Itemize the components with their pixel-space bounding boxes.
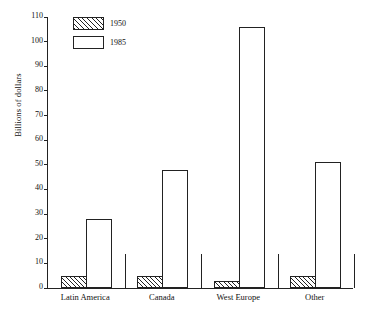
- bar-group: [201, 18, 278, 288]
- bar-group: [125, 18, 202, 288]
- y-tick-label: 110: [19, 11, 43, 20]
- x-axis-label-west-europe: West Europe: [200, 292, 277, 302]
- x-axis-label-canada: Canada: [124, 292, 201, 302]
- y-tick-label: 70: [19, 110, 43, 119]
- bar-chart-figure: Billions of dollars 01020304050607080901…: [0, 0, 383, 322]
- y-tick-label: 90: [19, 60, 43, 69]
- bar-1985-west-europe: [239, 27, 265, 288]
- y-tick-label: 80: [19, 85, 43, 94]
- legend-label-1985: 1985: [110, 39, 126, 47]
- bar-1985-latin-america: [86, 219, 112, 288]
- chart-legend: 19501985: [73, 17, 126, 55]
- category-separator: [354, 254, 355, 288]
- legend-item-1985: 1985: [73, 36, 126, 49]
- y-tick-label: 0: [19, 282, 43, 291]
- legend-swatch-1985: [73, 36, 104, 49]
- bar-1950-latin-america: [61, 276, 87, 288]
- legend-item-1950: 1950: [73, 17, 126, 30]
- bar-1985-canada: [162, 170, 188, 288]
- bar-group: [278, 18, 355, 288]
- y-tick-label: 60: [19, 134, 43, 143]
- legend-swatch-1950: [73, 17, 104, 30]
- plot-area: 0102030405060708090100110: [47, 18, 353, 289]
- bar-series-container: [48, 18, 353, 288]
- bar-1950-canada: [137, 276, 163, 288]
- y-tick-label: 100: [19, 36, 43, 45]
- x-axis-label-latin-america: Latin America: [47, 292, 124, 302]
- bar-1950-west-europe: [214, 281, 240, 288]
- bar-group: [48, 18, 125, 288]
- y-tick-label: 30: [19, 208, 43, 217]
- y-tick-label: 40: [19, 183, 43, 192]
- y-tick-label: 10: [19, 257, 43, 266]
- legend-label-1950: 1950: [110, 20, 126, 28]
- bar-1985-other: [315, 162, 341, 288]
- y-tick-label: 20: [19, 233, 43, 242]
- x-axis-label-other: Other: [277, 292, 354, 302]
- y-tick-label: 50: [19, 159, 43, 168]
- bar-1950-other: [290, 276, 316, 288]
